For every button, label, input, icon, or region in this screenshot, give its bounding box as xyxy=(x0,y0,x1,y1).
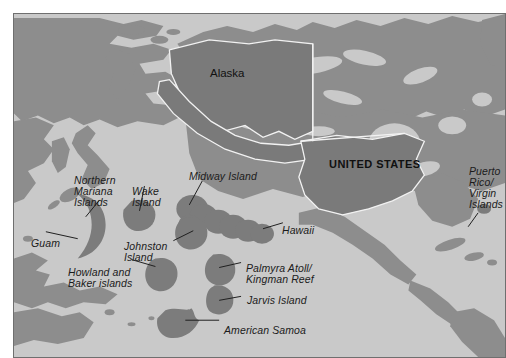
label-american-samoa: American Samoa xyxy=(224,325,306,336)
land-speck-pac-3 xyxy=(148,316,154,320)
arctic-gap-9 xyxy=(472,93,492,107)
label-palmyra-atoll-kingman-reef: Palmyra Atoll/ Kingman Reef xyxy=(246,263,314,285)
label-jarvis-island: Jarvis Island xyxy=(247,295,307,306)
marker-palmyra-kingman xyxy=(205,254,235,285)
label-hawaii: Hawaii xyxy=(282,225,314,236)
map-frame: Alaska UNITED STATES Northern Mariana Is… xyxy=(13,13,506,358)
arctic-gap-8 xyxy=(438,116,466,134)
land-speck-pac-1 xyxy=(105,309,115,315)
label-johnston-island: Johnston Island xyxy=(124,241,167,263)
label-guam: Guam xyxy=(31,238,60,249)
land-puerto-rico xyxy=(487,260,497,266)
label-united-states: UNITED STATES xyxy=(329,159,421,171)
label-northern-mariana-islands: Northern Mariana Islands xyxy=(74,175,116,208)
land-speck-3 xyxy=(166,29,180,35)
land-speck-pac-2 xyxy=(128,322,136,326)
land-speck-1 xyxy=(119,25,145,35)
label-midway-island: Midway Island xyxy=(189,171,257,182)
map-figure: Alaska UNITED STATES Northern Mariana Is… xyxy=(0,0,506,358)
label-alaska: Alaska xyxy=(210,67,245,79)
label-wake-island: Wake Island xyxy=(132,186,161,208)
land-speck-2 xyxy=(150,36,168,44)
label-howland-and-baker-islands: Howland and Baker islands xyxy=(68,267,132,289)
label-puerto-rico-virgin-islands: Puerto Rico/ Virgin Islands xyxy=(469,166,503,211)
